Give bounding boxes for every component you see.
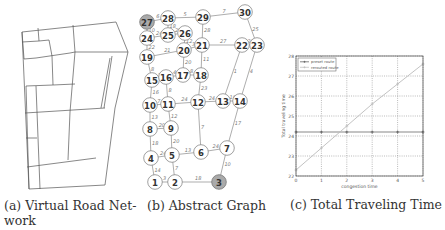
- series-marker: [396, 131, 399, 134]
- y-tick-label: 26: [288, 94, 294, 99]
- legend-label: rerouted route: [311, 65, 339, 70]
- series-marker: [320, 131, 323, 134]
- x-tick-label: 2: [345, 178, 348, 183]
- series-line-1: [296, 64, 423, 170]
- x-axis-label: congestion time: [341, 184, 377, 189]
- y-tick-label: 24: [288, 134, 294, 139]
- traveling-time-chart: 01234522232425262728congestion timeTotal…: [0, 0, 445, 230]
- x-tick-label: 0: [295, 178, 298, 183]
- series-marker: [345, 131, 348, 134]
- y-tick-label: 28: [288, 54, 294, 59]
- x-tick-label: 3: [371, 178, 374, 183]
- y-tick-label: 23: [288, 154, 294, 159]
- x-tick-label: 4: [396, 178, 399, 183]
- x-tick-label: 1: [320, 178, 323, 183]
- legend-label: preset route: [311, 59, 335, 64]
- y-tick-label: 25: [288, 114, 294, 119]
- y-tick-label: 22: [288, 174, 294, 179]
- caption-c: (c) Total Traveling Time: [290, 197, 442, 212]
- y-axis-label: Total traveling time: [281, 94, 286, 139]
- x-tick-label: 5: [422, 178, 425, 183]
- y-tick-label: 27: [288, 74, 294, 79]
- figure-c-chart: 01234522232425262728congestion timeTotal…: [0, 0, 445, 230]
- chart-legend: preset routererouted route: [298, 58, 339, 71]
- series-marker: [371, 131, 374, 134]
